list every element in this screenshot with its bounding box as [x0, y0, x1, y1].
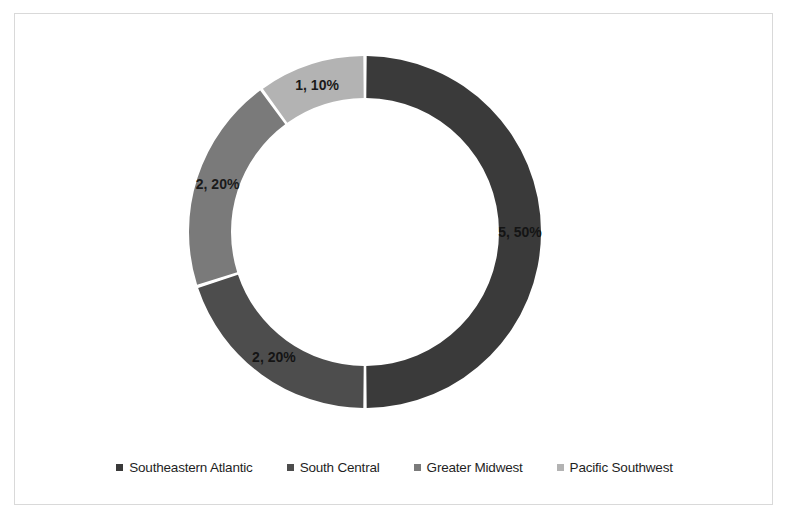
legend-swatch-icon [116, 464, 123, 471]
slice-data-label: 1, 10% [295, 77, 339, 93]
slice-data-label: 2, 20% [252, 349, 296, 365]
doughnut-chart: 5, 50%2, 20%2, 20%1, 10% [183, 50, 547, 414]
slice-group [189, 56, 541, 408]
legend-item[interactable]: Greater Midwest [414, 460, 523, 475]
legend-label: South Central [300, 460, 380, 475]
legend-swatch-icon [414, 464, 421, 471]
legend-item[interactable]: Southeastern Atlantic [116, 460, 252, 475]
doughnut-svg: 5, 50%2, 20%2, 20%1, 10% [183, 50, 547, 414]
legend-label: Pacific Southwest [570, 460, 673, 475]
slice-data-label: 5, 50% [498, 224, 542, 240]
legend-item[interactable]: South Central [287, 460, 380, 475]
legend-item[interactable]: Pacific Southwest [557, 460, 673, 475]
legend-label: Southeastern Atlantic [129, 460, 252, 475]
chart-legend: Southeastern AtlanticSouth CentralGreate… [15, 454, 774, 480]
chart-frame: 5, 50%2, 20%2, 20%1, 10% Southeastern At… [14, 13, 773, 505]
plot-area: 5, 50%2, 20%2, 20%1, 10% [15, 14, 774, 444]
pie-slice[interactable] [198, 275, 364, 408]
legend-swatch-icon [287, 464, 294, 471]
legend-label: Greater Midwest [427, 460, 523, 475]
slice-data-label: 2, 20% [196, 176, 240, 192]
legend-swatch-icon [557, 464, 564, 471]
